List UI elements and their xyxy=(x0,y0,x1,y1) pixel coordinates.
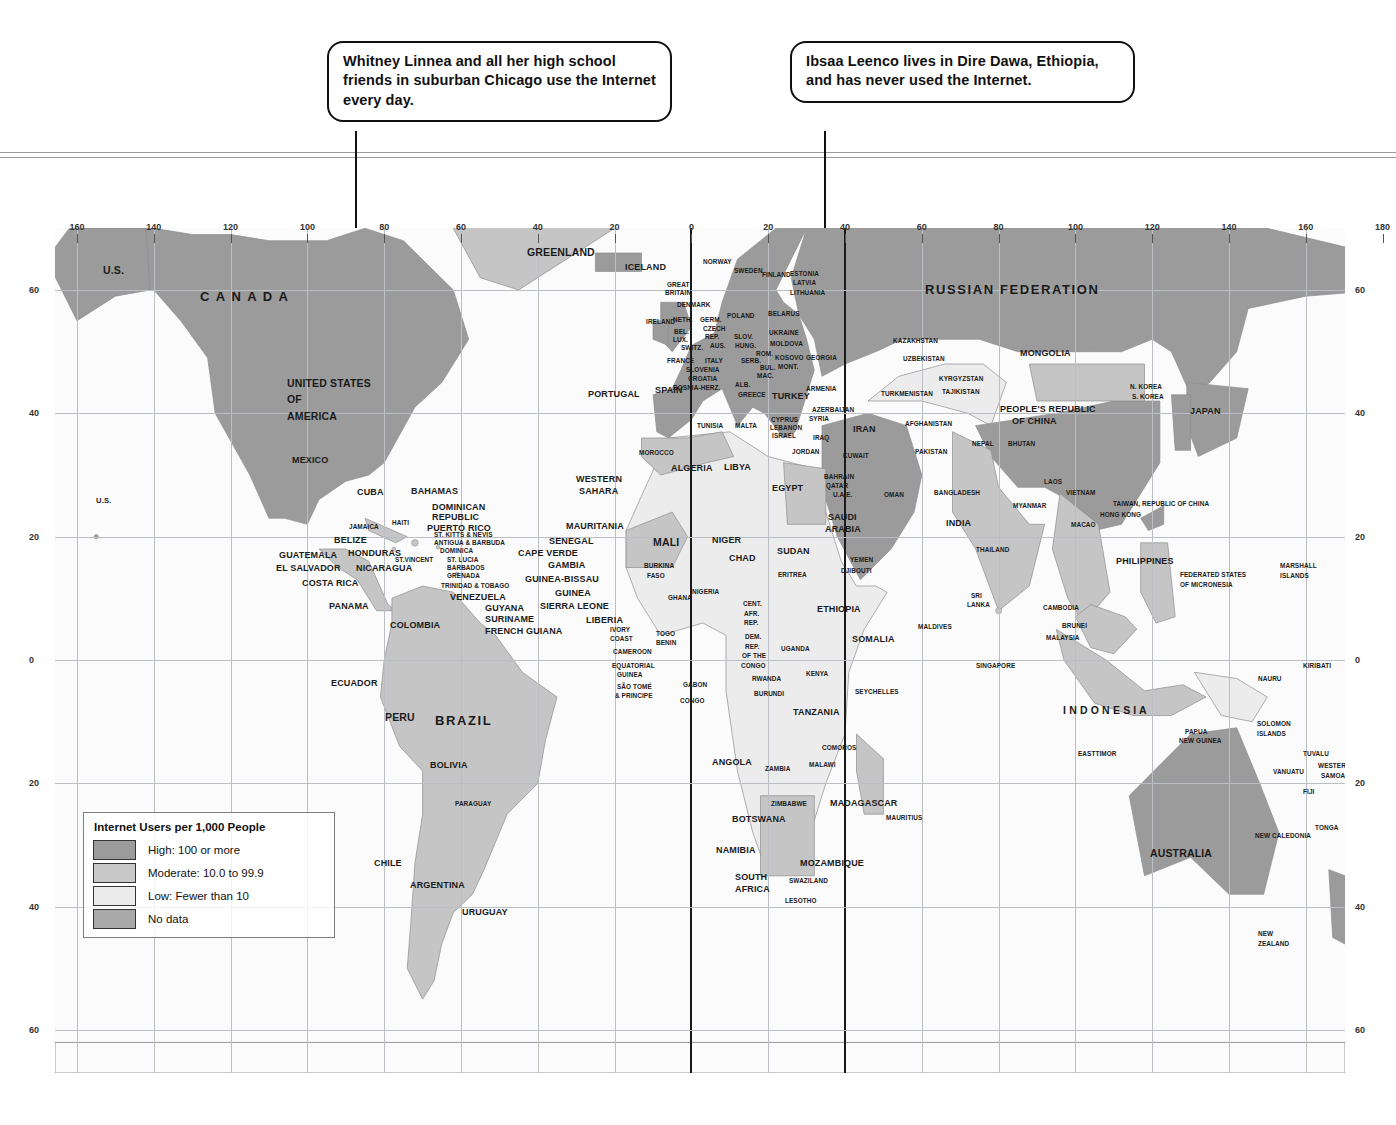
map-label-kuwait: KUWAIT xyxy=(843,452,869,459)
map-label-slov: SLOV. xyxy=(734,333,753,340)
longitude-tickmark-16 xyxy=(1306,234,1307,243)
callout-chicago-stem xyxy=(355,131,357,159)
map-label-australia: AUSTRALIA xyxy=(1150,848,1212,860)
latitude-tick-right-2: 20 xyxy=(1355,532,1365,542)
map-label-algeria: ALGERIA xyxy=(671,463,713,473)
longitude-tick-120-2: 120 xyxy=(223,222,238,232)
map-label-south: SOUTH xyxy=(735,872,767,882)
map-label-honduras: HONDURAS xyxy=(348,548,401,558)
map-label-ireland: IRELAND xyxy=(646,318,675,325)
map-label-rwanda: RWANDA xyxy=(752,675,781,682)
map-label-st-kitts-nevis: ST. KITTS & NEVIS xyxy=(434,531,493,538)
map-label-guinea: GUINEA xyxy=(617,671,642,678)
map-label-lebanon: LEBANON xyxy=(770,424,802,431)
map-label-angola: ANGOLA xyxy=(712,757,752,767)
map-label-finland: FINLAND xyxy=(762,271,791,278)
map-label-swaziland: SWAZILAND xyxy=(789,877,828,884)
map-label-bahamas: BAHAMAS xyxy=(411,486,458,496)
longitude-tick-180-17: 180 xyxy=(1375,222,1390,232)
map-label-sahara: SAHARA xyxy=(579,486,618,496)
map-label-liberia: LIBERIA xyxy=(586,615,623,625)
map-label-yemen: YEMEN xyxy=(850,556,873,563)
map-label-vanuatu: VANUATU xyxy=(1273,768,1304,775)
map-label-turkmenistan: TURKMENISTAN xyxy=(881,390,933,397)
world-map[interactable]: U.S.U.S.C A N A D AGREENLANDUNITED STATE… xyxy=(55,228,1345,1073)
map-label-benin: BENIN xyxy=(656,639,676,646)
legend-swatch-low xyxy=(93,886,136,906)
map-label-mauritania: MAURITANIA xyxy=(566,521,624,531)
meridian--80 xyxy=(384,228,385,1073)
map-label-dominica: DOMINICA xyxy=(440,547,473,554)
map-label-alb: ALB. xyxy=(735,381,750,388)
longitude-tick-60-5: 60 xyxy=(456,222,466,232)
longitude-tickmark-1 xyxy=(154,234,155,243)
map-label-cuba: CUBA xyxy=(357,487,384,497)
map-label-ethiopia: ETHIOPIA xyxy=(817,604,861,614)
legend-swatch-nodata xyxy=(93,909,136,929)
map-label-samoa: SAMOA xyxy=(1321,772,1345,779)
map-label-nicaragua: NICARAGUA xyxy=(356,563,412,573)
map-label-colombia: COLOMBIA xyxy=(390,620,440,630)
latitude-tick-right-5: 40 xyxy=(1355,902,1365,912)
map-label-jamaica: JAMAICA xyxy=(349,523,379,530)
map-label-kiribati: KIRIBATI xyxy=(1303,662,1331,669)
longitude-tick-20-9: 20 xyxy=(763,222,773,232)
longitude-tick-80-12: 80 xyxy=(994,222,1004,232)
longitude-tickmark-10 xyxy=(845,234,846,243)
map-label-azerbaijan: AZERBAIJAN xyxy=(812,406,854,413)
map-label-latvia: LATVIA xyxy=(793,279,816,286)
map-label-belize: BELIZE xyxy=(334,535,367,545)
map-label-rep: REP. xyxy=(745,643,760,650)
map-label-people-s-republic: PEOPLE'S REPUBLIC xyxy=(1000,404,1096,414)
map-label-maldives: MALDIVES xyxy=(918,623,952,630)
map-label-africa: AFRICA xyxy=(735,884,770,894)
parallel--60 xyxy=(55,1030,1345,1031)
meridian-140 xyxy=(1229,228,1230,1073)
map-label-marshall: MARSHALL xyxy=(1280,562,1317,569)
map-label-equatorial: EQUATORIAL xyxy=(612,662,655,669)
map-label-lux: LUX. xyxy=(673,336,688,343)
map-label-portugal: PORTUGAL xyxy=(588,389,640,399)
latitude-tick-right-1: 40 xyxy=(1355,408,1365,418)
meridian--120 xyxy=(231,228,232,1073)
heavy-meridian-0 xyxy=(690,228,692,1073)
map-label-arabia: ARABIA xyxy=(825,524,861,534)
map-label-hung: HUNG. xyxy=(735,342,756,349)
map-label-mexico: MEXICO xyxy=(292,455,328,465)
meridian-100 xyxy=(1075,228,1076,1073)
map-label-of: OF xyxy=(287,394,302,406)
longitude-tick-160-16: 160 xyxy=(1298,222,1313,232)
japan xyxy=(1187,383,1248,457)
map-label-philippines: PHILIPPINES xyxy=(1116,556,1174,566)
longitude-tick-140-15: 140 xyxy=(1221,222,1236,232)
longitude-tickmark-4 xyxy=(384,234,385,243)
map-label-oman: OMAN xyxy=(884,491,904,498)
map-label-madagascar: MADAGASCAR xyxy=(830,798,898,808)
heavy-meridian-40 xyxy=(844,228,846,1073)
map-label-tajikistan: TAJIKISTAN xyxy=(942,388,980,395)
map-label-islands: ISLANDS xyxy=(1280,572,1309,579)
longitude-tick-0-8: 0 xyxy=(689,222,694,232)
callout-ethiopia-stem xyxy=(824,131,826,159)
longitude-tickmark-5 xyxy=(461,234,462,243)
map-label-guatemala: GUATEMALA xyxy=(279,550,337,560)
map-label-thailand: THAILAND xyxy=(976,546,1009,553)
map-label-estonia: ESTONIA xyxy=(790,270,819,277)
legend-label-high: High: 100 or more xyxy=(148,844,240,856)
map-label-bel: BEL. xyxy=(674,328,689,335)
map-label-brunei: BRUNEI xyxy=(1062,622,1087,629)
map-label-afr: AFR. xyxy=(744,610,759,617)
map-label-egypt: EGYPT xyxy=(772,483,803,493)
map-label-cambodia: CAMBODIA xyxy=(1043,604,1079,611)
map-label-s-o-tom: SÃO TOMÉ xyxy=(617,683,652,690)
longitude-tickmark-2 xyxy=(231,234,232,243)
latitude-tick-left-4: 20 xyxy=(29,778,39,788)
longitude-tick-160-0: 160 xyxy=(69,222,84,232)
page-rule-top2 xyxy=(0,157,1396,158)
map-label-moldova: MOLDOVA xyxy=(770,340,803,347)
latitude-tick-left-0: 60 xyxy=(29,285,39,295)
map-label-poland: POLAND xyxy=(727,312,755,319)
map-label-bangladesh: BANGLADESH xyxy=(934,489,980,496)
map-legend: Internet Users per 1,000 People High: 10… xyxy=(83,812,335,938)
map-label-venezuela: VENEZUELA xyxy=(450,592,506,602)
